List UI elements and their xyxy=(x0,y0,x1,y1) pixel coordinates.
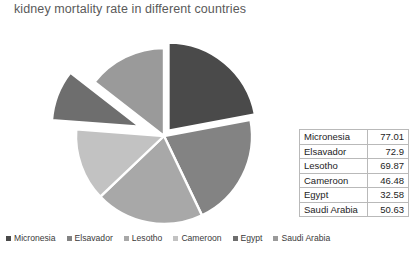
legend-item-label: Cameroon xyxy=(181,233,221,243)
table-cell-value: 77.01 xyxy=(368,130,409,145)
pie-chart-svg xyxy=(14,18,286,228)
data-table: Micronesia77.01Elsavador72.9Lesotho69.87… xyxy=(299,129,409,217)
legend-item-label: Elsavador xyxy=(75,233,113,243)
table-row: Lesotho69.87 xyxy=(300,159,409,174)
legend-swatch-icon xyxy=(6,236,11,241)
table-row: Elsavador72.9 xyxy=(300,144,409,159)
legend-swatch-icon xyxy=(124,236,129,241)
legend-swatch-icon xyxy=(173,236,178,241)
table-cell-country: Saudi Arabia xyxy=(300,202,368,217)
legend-item[interactable]: Micronesia xyxy=(6,233,56,243)
table-cell-country: Egypt xyxy=(300,188,368,203)
legend-item[interactable]: Egypt xyxy=(233,233,263,243)
legend-swatch-icon xyxy=(233,236,238,241)
legend-item[interactable]: Lesotho xyxy=(124,233,163,243)
legend-item-label: Egypt xyxy=(241,233,263,243)
legend-item-label: Lesotho xyxy=(132,233,163,243)
table-cell-country: Elsavador xyxy=(300,144,368,159)
table-cell-value: 72.9 xyxy=(368,144,409,159)
table-cell-country: Micronesia xyxy=(300,130,368,145)
table-cell-country: Lesotho xyxy=(300,159,368,174)
legend-item[interactable]: Saudi Arabia xyxy=(273,233,330,243)
legend-swatch-icon xyxy=(273,236,278,241)
legend-item-label: Micronesia xyxy=(14,233,56,243)
data-table-body: Micronesia77.01Elsavador72.9Lesotho69.87… xyxy=(300,130,409,217)
table-row: Egypt32.58 xyxy=(300,188,409,203)
legend-item[interactable]: Elsavador xyxy=(67,233,113,243)
table-cell-value: 50.63 xyxy=(368,202,409,217)
pie-slice[interactable] xyxy=(168,43,254,131)
table-cell-value: 32.58 xyxy=(368,188,409,203)
pie-chart xyxy=(14,18,286,228)
chart-title: kidney mortality rate in different count… xyxy=(14,2,246,16)
chart-legend: MicronesiaElsavadorLesothoCameroonEgyptS… xyxy=(6,233,330,243)
legend-swatch-icon xyxy=(67,236,72,241)
table-row: Micronesia77.01 xyxy=(300,130,409,145)
table-row: Saudi Arabia50.63 xyxy=(300,202,409,217)
table-cell-country: Cameroon xyxy=(300,173,368,188)
table-cell-value: 46.48 xyxy=(368,173,409,188)
table-cell-value: 69.87 xyxy=(368,159,409,174)
table-row: Cameroon46.48 xyxy=(300,173,409,188)
legend-item-label: Saudi Arabia xyxy=(281,233,330,243)
legend-item[interactable]: Cameroon xyxy=(173,233,221,243)
